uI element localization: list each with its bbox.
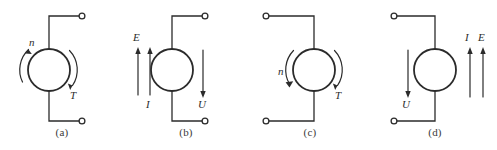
bottom-lead-wire [269,91,314,121]
terminal-top [79,13,85,19]
panel-a-diagram: n T [0,0,124,126]
top-lead-wire [269,16,314,49]
top-lead-wire [397,16,435,49]
voltage-label: U [198,98,207,110]
panel-caption-b: (b) [124,126,248,138]
panel-a: n T (a) [0,0,124,150]
terminal-bottom [391,118,397,124]
panel-d: U I E (d) [373,0,497,150]
terminal-top [391,13,397,19]
top-lead-wire [172,16,202,49]
panel-b: E I U (b) [124,0,248,150]
terminal-top [202,13,208,19]
terminal-top [263,13,269,19]
current-arrowhead [147,47,152,54]
current-label: I [145,98,151,110]
machine-circle [151,49,193,91]
panel-caption-d: (d) [373,126,497,138]
emf-arrowhead [135,47,140,54]
rotation-arc [20,50,29,83]
top-lead-wire [49,16,79,49]
emf-label: E [477,31,485,43]
panel-c: n T (c) [248,0,372,150]
current-arrowhead [467,47,472,54]
terminal-bottom [79,118,85,124]
current-label: I [464,31,470,43]
panel-c-diagram: n T [248,0,372,126]
machine-circle [28,49,70,91]
emf-label: E [132,31,140,43]
panel-caption-a: (a) [0,126,124,138]
torque-label: T [70,89,77,101]
panel-b-diagram: E I U [124,0,248,126]
terminal-bottom [202,118,208,124]
voltage-label: U [402,98,411,110]
machine-circle [414,49,456,91]
voltage-arrowhead [200,91,205,98]
torque-label: T [335,89,342,101]
rotation-arrowhead [286,81,294,87]
rotation-label: n [278,65,284,77]
rotation-label: n [29,36,35,48]
panel-d-diagram: U I E [373,0,497,126]
emf-arrowhead [480,47,485,54]
terminal-bottom [263,118,269,124]
voltage-arrowhead [405,91,410,98]
machine-circle [293,49,335,91]
machine-convention-figure: n T (a) E [0,0,497,150]
panel-caption-c: (c) [248,126,372,138]
